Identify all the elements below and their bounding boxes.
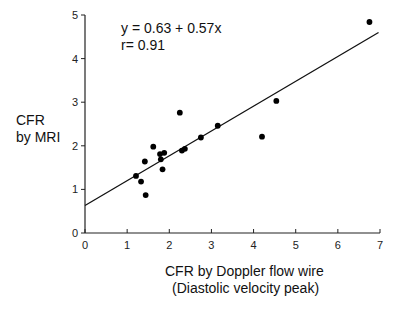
x-tick-label: 5: [293, 239, 299, 251]
data-points: [133, 19, 372, 198]
correlation-coefficient: r= 0.91: [121, 37, 165, 54]
data-point: [273, 98, 279, 104]
data-point: [198, 135, 204, 141]
x-tick-label: 1: [124, 239, 130, 251]
y-axis-label-line2: by MRI: [16, 129, 60, 146]
data-point: [177, 110, 183, 116]
data-point: [133, 173, 139, 179]
data-point: [367, 19, 373, 25]
data-point: [142, 159, 148, 165]
x-tick-label: 0: [82, 239, 88, 251]
y-tick-label: 1: [72, 183, 78, 195]
x-tick-label: 3: [208, 239, 214, 251]
x-tick-label: 4: [251, 239, 257, 251]
regression-line: [85, 32, 379, 205]
data-point: [215, 123, 221, 129]
y-axis-label-line1: CFR: [16, 112, 45, 129]
x-axis-label-line2: (Diastolic velocity peak): [172, 280, 319, 297]
data-point: [259, 134, 265, 140]
data-point: [158, 156, 164, 162]
y-tick-label: 2: [72, 140, 78, 152]
data-point: [138, 179, 144, 185]
data-point: [182, 146, 188, 152]
y-tick-label: 3: [72, 96, 78, 108]
y-tick-label: 0: [72, 227, 78, 239]
x-tick-label: 2: [166, 239, 172, 251]
data-point: [160, 166, 166, 172]
regression-equation: y = 0.63 + 0.57x: [121, 20, 221, 37]
y-tick-label: 5: [72, 9, 78, 21]
tick-labels: 01234567012345: [72, 9, 383, 251]
data-point: [143, 192, 149, 198]
data-point: [150, 144, 156, 150]
x-tick-label: 7: [377, 239, 383, 251]
data-point: [161, 150, 167, 156]
y-tick-label: 4: [72, 53, 78, 65]
x-tick-label: 6: [335, 239, 341, 251]
x-axis-label-line1: CFR by Doppler flow wire: [165, 263, 324, 280]
